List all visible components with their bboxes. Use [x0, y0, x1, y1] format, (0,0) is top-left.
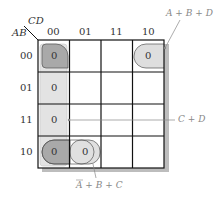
kmap-svg — [0, 0, 218, 200]
leader-abd — [165, 20, 180, 48]
row-variable-label: AB — [12, 27, 27, 38]
row-header-00: 00 — [20, 50, 33, 61]
leader-cd-dot — [68, 119, 70, 121]
cell-01-00: 0 — [51, 82, 57, 93]
cell-00-00: 0 — [51, 50, 57, 61]
cell-10-01: 0 — [82, 146, 88, 157]
col-header-00: 00 — [47, 26, 60, 37]
annotation-a-plus-b-plus-d: A + B + D — [166, 8, 213, 18]
row-header-11: 11 — [20, 114, 33, 125]
leader-abd-dot — [164, 47, 166, 49]
row-header-01: 01 — [20, 82, 33, 93]
col-header-11: 11 — [110, 26, 123, 37]
cell-11-00: 0 — [51, 114, 57, 125]
karnaugh-map-diagram: CD AB 00 01 11 10 00 01 11 10 0 0 0 0 0 … — [0, 0, 218, 200]
cell-10-00: 0 — [51, 146, 57, 157]
col-variable-label: CD — [28, 15, 44, 26]
annotation-c-plus-d: C + D — [178, 114, 205, 124]
row-header-10: 10 — [20, 146, 33, 157]
cell-00-10: 0 — [145, 50, 151, 61]
col-header-10: 10 — [142, 26, 155, 37]
annotation-abar-plus-b-plus-c: A + B + C — [76, 180, 123, 190]
col-header-01: 01 — [79, 26, 92, 37]
